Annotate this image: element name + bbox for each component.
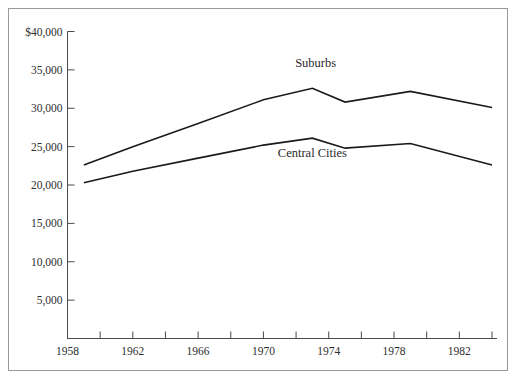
y-tick-label: 20,000 <box>31 179 63 192</box>
x-tick-label: 1966 <box>187 345 210 357</box>
line-chart: $40,00035,00030,00025,00020,00015,00010,… <box>0 0 518 386</box>
series-label-suburbs: Suburbs <box>295 56 336 70</box>
x-tick-label: 1982 <box>448 345 471 357</box>
x-tick-label: 1974 <box>317 345 340 357</box>
y-axis-labels: $40,00035,00030,00025,00020,00015,00010,… <box>25 26 63 308</box>
y-tick-label: 25,000 <box>31 141 63 154</box>
y-tick-label: 30,000 <box>31 102 63 115</box>
series-label-central-cities: Central Cities <box>278 146 347 160</box>
x-tick-label: 1958 <box>56 345 79 357</box>
y-tick-label: 10,000 <box>31 256 63 269</box>
y-tick-label: $40,000 <box>25 26 63 39</box>
x-axis-labels: 1958196219661970197419781982 <box>56 345 471 357</box>
series-annotations: SuburbsCentral Cities <box>278 56 347 161</box>
chart-page: $40,00035,00030,00025,00020,00015,00010,… <box>0 0 518 386</box>
x-tick-label: 1962 <box>121 345 144 357</box>
x-axis-ticks <box>68 332 493 339</box>
series-line-central-cities <box>84 138 492 183</box>
y-tick-label: 5,000 <box>37 294 63 307</box>
y-tick-label: 15,000 <box>31 217 63 230</box>
y-tick-label: 35,000 <box>31 64 63 77</box>
series-lines <box>84 88 492 182</box>
x-tick-label: 1970 <box>252 345 275 357</box>
chart-svg: $40,00035,00030,00025,00020,00015,00010,… <box>0 0 518 386</box>
x-tick-label: 1978 <box>383 345 406 357</box>
y-axis-ticks <box>68 32 75 301</box>
